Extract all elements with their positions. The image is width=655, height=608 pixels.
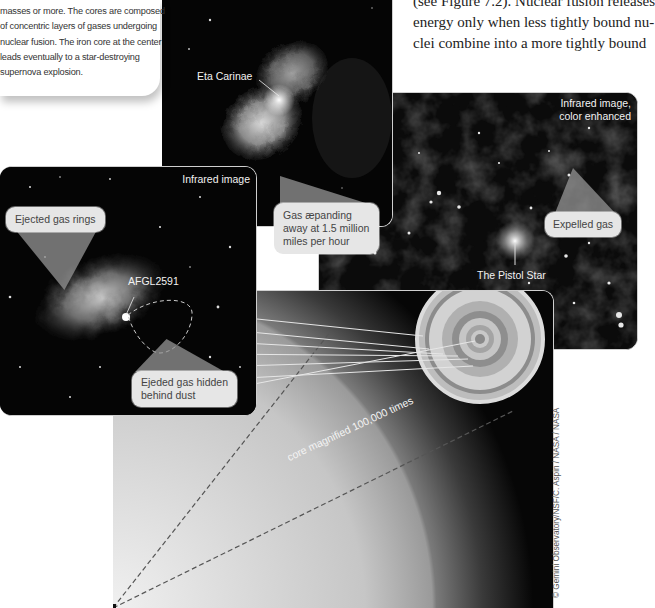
body-line: energy only when less tightly bound nu- (413, 12, 641, 33)
expelled-gas-callout: Expelled gas (545, 212, 621, 237)
caption-line: of concentric layers of gases undergoing (0, 19, 160, 34)
callout-line: behind dust (141, 389, 228, 402)
body-line: (see Figure 7.2). Nuclear fusion release… (413, 0, 641, 12)
figure-caption: masses or more. The cores are composed o… (0, 0, 160, 96)
callout-line: Ejeded gas hidden (141, 376, 228, 389)
caption-line: leads eventually to a star-destroying (0, 50, 160, 65)
image-type-note: Infrared image, color enhanced (559, 97, 631, 123)
pistol-star-label: The Pistol Star (477, 269, 546, 281)
photo-credit: © Gemini Observatory/NSF/C. Aspin / NASA… (552, 428, 566, 608)
callout-line: away at 1.5 million (283, 222, 370, 235)
caption-line: masses or more. The cores are composed (0, 4, 160, 19)
afgl2591-panel: Infrared image Ejected gas rings AFGL259… (0, 166, 257, 416)
credit-text: © Gemini Observatory/NSF/C. Aspin / NASA… (552, 408, 561, 598)
caption-line: supernova explosion. (0, 65, 160, 80)
ejected-gas-rings-callout: Ejected gas rings (6, 207, 105, 232)
image-type-note: Infrared image (182, 173, 250, 185)
hidden-gas-callout: Ejeded gas hidden behind dust (132, 371, 237, 407)
caption-line: nuclear fusion. The iron core at the cen… (0, 35, 160, 50)
gas-expanding-callout: Gas æpanding away at 1.5 million miles p… (274, 203, 379, 254)
callout-line: miles per hour (283, 235, 370, 248)
note-line: color enhanced (559, 110, 631, 123)
afgl2591-label: AFGL2591 (128, 275, 179, 287)
note-line: Infrared image, (559, 97, 631, 110)
body-text: (see Figure 7.2). Nuclear fusion release… (413, 0, 641, 54)
callout-line: Gas æpanding (283, 209, 370, 222)
body-line: clei combine into a more tightly bound (413, 33, 641, 54)
eta-carinae-label: Eta Carinae (197, 70, 252, 82)
